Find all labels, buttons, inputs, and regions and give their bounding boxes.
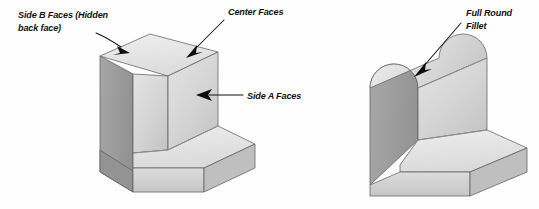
left-part-center-face-front <box>133 74 168 153</box>
callout-full-round-fillet-line2: Fillet <box>466 21 487 31</box>
callout-side-b-faces-line1: Side B Faces (Hidden <box>18 10 109 20</box>
callout-full-round-fillet-line1: Full Round <box>466 8 513 18</box>
callout-side-b-faces-line2: back face) <box>18 23 61 33</box>
callout-side-a-faces-label: Side A Faces <box>247 91 301 101</box>
left-part-base-front-face <box>133 168 204 192</box>
technical-illustration-svg: Side B Faces (Hidden back face) Center F… <box>0 0 539 209</box>
callout-center-faces-label: Center Faces <box>228 7 283 17</box>
figure-container: Side B Faces (Hidden back face) Center F… <box>0 0 539 209</box>
